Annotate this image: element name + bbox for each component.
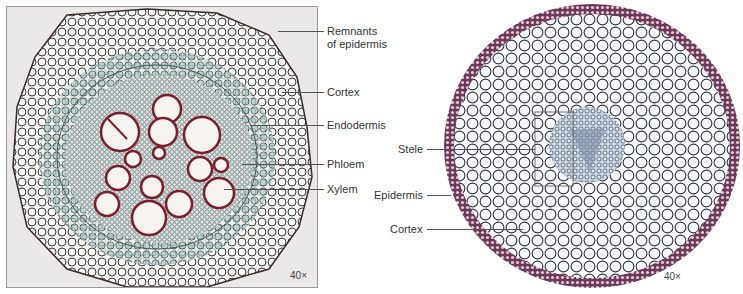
leader-remnants-epidermis: [278, 31, 324, 32]
label-endodermis: Endodermis: [327, 119, 386, 132]
leader-xylem: [224, 189, 324, 190]
label-remnants-line1: Remnants: [327, 25, 387, 38]
label-cortex-right: Cortex: [390, 223, 422, 236]
leader-epidermis: [427, 195, 451, 196]
leader-endodermis: [250, 125, 324, 126]
left-root-cross-section-image: [7, 7, 318, 288]
right-root-cross-section-image: [440, 0, 743, 294]
leader-cortex-right: [427, 229, 523, 230]
leader-stele: [427, 149, 535, 150]
leader-cortex-left: [282, 92, 324, 93]
label-remnants-line2: of epidermis: [327, 38, 387, 51]
label-remnants-epidermis: Remnants of epidermis: [327, 25, 387, 51]
leader-phloem: [242, 164, 324, 165]
left-micrograph-panel: 40×: [6, 6, 318, 288]
label-epidermis: Epidermis: [374, 189, 423, 202]
right-magnification-label: 40×: [664, 271, 681, 282]
label-stele: Stele: [398, 143, 423, 156]
label-cortex-left: Cortex: [327, 86, 359, 99]
label-xylem: Xylem: [327, 183, 358, 196]
label-phloem: Phloem: [327, 158, 364, 171]
left-magnification-label: 40×: [290, 270, 307, 281]
